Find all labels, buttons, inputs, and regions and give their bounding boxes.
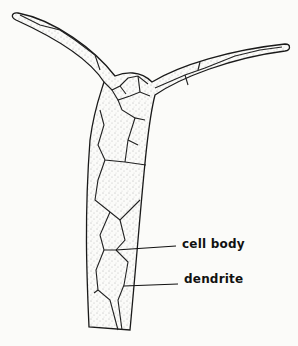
cell-diagram [0, 0, 298, 346]
cell-body-label: cell body [182, 237, 245, 251]
dendrite-label: dendrite [184, 272, 243, 286]
cell-outline [12, 13, 289, 330]
